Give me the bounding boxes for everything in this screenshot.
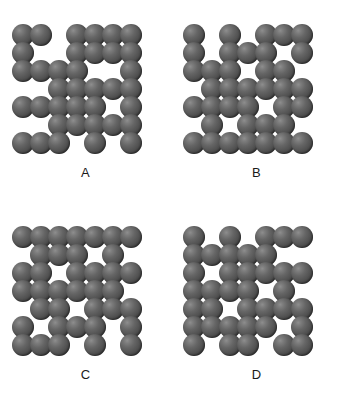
panel-d: D xyxy=(171,202,342,404)
panel-a-label: A xyxy=(0,165,171,180)
panel-b-sphere-grid xyxy=(185,26,321,162)
panel-a: A xyxy=(0,0,171,202)
sphere xyxy=(120,262,142,284)
sphere xyxy=(291,132,313,154)
sphere xyxy=(291,262,313,284)
panel-c-sphere-grid xyxy=(14,228,150,364)
panel-c: C xyxy=(0,202,171,404)
sphere-packing-figure: A B C D xyxy=(0,0,342,404)
panel-b: B xyxy=(171,0,342,202)
sphere xyxy=(120,132,142,154)
sphere xyxy=(84,132,106,154)
sphere xyxy=(84,334,106,356)
sphere xyxy=(255,316,277,338)
sphere xyxy=(291,42,313,64)
sphere xyxy=(120,334,142,356)
sphere xyxy=(120,226,142,248)
sphere xyxy=(291,226,313,248)
sphere xyxy=(30,24,52,46)
sphere xyxy=(291,334,313,356)
sphere xyxy=(237,334,259,356)
sphere xyxy=(291,96,313,118)
panel-a-sphere-grid xyxy=(14,26,150,162)
panel-b-label: B xyxy=(171,165,342,180)
sphere xyxy=(48,132,70,154)
sphere xyxy=(48,334,70,356)
panel-c-label: C xyxy=(0,367,171,382)
panel-d-sphere-grid xyxy=(185,228,321,364)
sphere xyxy=(183,334,205,356)
panel-d-label: D xyxy=(171,367,342,382)
